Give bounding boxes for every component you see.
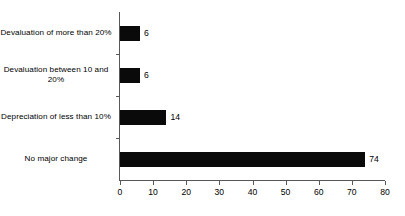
y-axis-tick	[116, 138, 119, 139]
bar-value-label: 14	[170, 110, 180, 125]
x-axis-tick-label: 80	[370, 187, 400, 197]
x-axis-tick-label: 30	[204, 187, 234, 197]
x-axis-tick-label: 20	[171, 187, 201, 197]
x-axis-tick	[286, 181, 287, 185]
bar	[120, 26, 140, 41]
x-axis-tick-label: 70	[337, 187, 367, 197]
bar-value-label: 74	[369, 152, 379, 167]
bar-value-label: 6	[144, 26, 149, 41]
category-label: No major change	[0, 154, 112, 165]
category-axis-labels: Devaluation of more than 20%Devaluation …	[0, 12, 116, 180]
category-label: Depreciation of less than 10%	[0, 112, 112, 123]
x-axis-tick	[319, 181, 320, 185]
bar-chart: Devaluation of more than 20%Devaluation …	[0, 0, 405, 216]
x-axis-tick	[253, 181, 254, 185]
category-label: Devaluation between 10 and 20%	[0, 65, 112, 86]
x-axis-tick-label: 50	[271, 187, 301, 197]
x-axis-tick-label: 10	[138, 187, 168, 197]
category-label: Devaluation of more than 20%	[0, 28, 112, 39]
y-axis-tick	[116, 54, 119, 55]
bar	[120, 68, 140, 83]
bar-value-label: 6	[144, 68, 149, 83]
y-axis-tick	[116, 96, 119, 97]
x-axis-tick	[153, 181, 154, 185]
x-axis-tick	[385, 181, 386, 185]
bar	[120, 152, 365, 167]
x-axis-tick	[352, 181, 353, 185]
x-axis-tick	[186, 181, 187, 185]
x-axis-tick-label: 40	[238, 187, 268, 197]
bar	[120, 110, 166, 125]
x-axis-tick-label: 0	[105, 187, 135, 197]
x-axis-tick	[120, 181, 121, 185]
plot-area: 01020304050607080 661474	[120, 12, 385, 180]
x-axis-tick-label: 60	[304, 187, 334, 197]
x-axis-tick	[219, 181, 220, 185]
